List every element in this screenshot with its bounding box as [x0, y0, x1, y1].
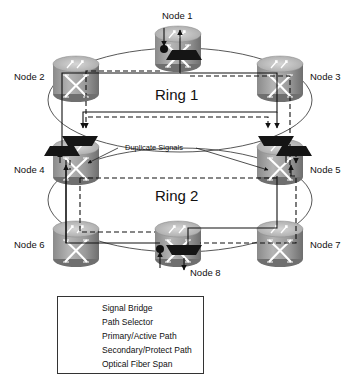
ring1-label: Ring 1 — [155, 86, 198, 103]
node6-device — [53, 221, 99, 267]
legend-label: Secondary/Protect Path — [102, 345, 192, 355]
legend-label: Primary/Active Path — [102, 331, 177, 341]
node7-label: Node 7 — [310, 239, 341, 250]
node2-label: Node 2 — [14, 71, 45, 82]
node1-label: Node 1 — [162, 10, 193, 21]
node3-label: Node 3 — [310, 71, 341, 82]
path-selector-node4-lower — [44, 146, 80, 156]
path-selector-node1 — [166, 50, 202, 60]
duplicate-signals-label: Duplicate Signals — [125, 143, 183, 152]
node6-label: Node 6 — [14, 239, 45, 250]
legend-item-secondary-path: Secondary/Protect Path — [58, 344, 203, 358]
legend-item-signal-bridge: Signal Bridge — [58, 302, 203, 316]
node2-device — [53, 56, 99, 102]
legend: Signal Bridge Path Selector Primary/Acti… — [57, 296, 204, 374]
signal-bridge-node1 — [160, 45, 168, 53]
path-selector-node8 — [166, 245, 202, 255]
path-selector-node5-lower — [276, 146, 312, 156]
path-selector-node4-upper — [62, 136, 98, 146]
legend-item-path-selector: Path Selector — [58, 316, 203, 330]
ring2-label: Ring 2 — [155, 187, 198, 204]
node5-label: Node 5 — [310, 164, 341, 175]
signal-bridge-node8 — [156, 245, 164, 253]
ring-network-diagram: Node 1 Node 2 Node 3 Node 4 Node 5 Node … — [0, 0, 361, 384]
node8-label: Node 8 — [190, 267, 221, 278]
legend-item-fiber-span: Optical Fiber Span — [58, 358, 203, 372]
legend-label: Optical Fiber Span — [102, 359, 172, 369]
legend-item-primary-path: Primary/Active Path — [58, 330, 203, 344]
node4-label: Node 4 — [14, 164, 45, 175]
node3-device — [257, 56, 303, 102]
legend-label: Signal Bridge — [102, 303, 153, 313]
legend-label: Path Selector — [102, 317, 153, 327]
path-selector-node5-upper — [258, 136, 294, 146]
